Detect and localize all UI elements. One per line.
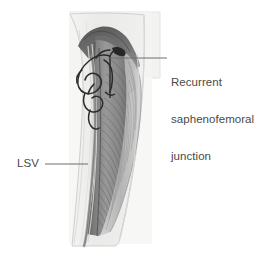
recurrent-saphenofemoral-junction-label: Recurrent saphenofemoral junction: [171, 51, 254, 187]
lsv-label: LSV: [17, 157, 39, 169]
label-line-3: junction: [171, 150, 254, 162]
label-line-2: saphenofemoral: [171, 113, 254, 125]
anatomical-figure: Recurrent saphenofemoral junction LSV: [0, 0, 257, 254]
label-line-1: Recurrent: [171, 76, 254, 88]
